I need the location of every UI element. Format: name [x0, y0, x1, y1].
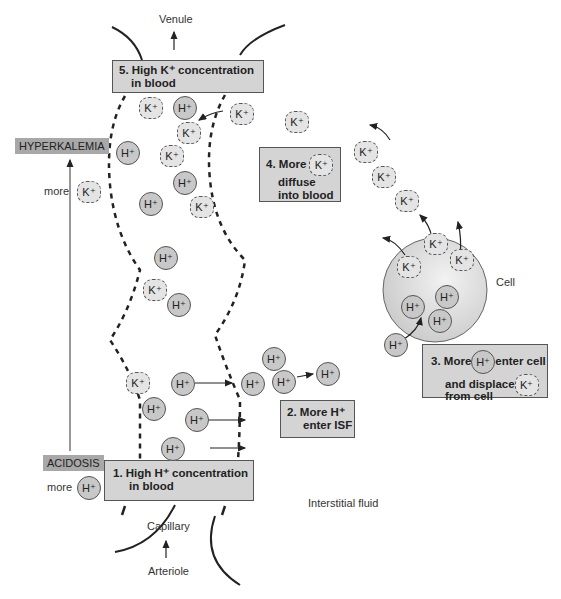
step-5-box: 5. High K⁺ concentration in blood	[112, 60, 264, 93]
h-ion: H⁺	[171, 372, 195, 396]
h-ion: H⁺	[428, 309, 452, 333]
k-ion: K⁺	[77, 181, 101, 203]
step-2-box: 2. More H⁺ enter ISF	[280, 400, 355, 438]
h-ion: H⁺	[142, 397, 166, 421]
k-ion: K⁺	[450, 249, 474, 271]
capillary-label: Capillary	[147, 520, 190, 532]
k-ion: K⁺	[160, 145, 184, 167]
h-ion: H⁺	[154, 246, 178, 270]
k-ion: K⁺	[230, 103, 254, 125]
acidosis-tag: ACIDOSIS	[43, 455, 104, 471]
h-ion: H⁺	[272, 370, 296, 394]
k-ion: K⁺	[395, 190, 419, 212]
k-ion-icon: K⁺	[309, 154, 333, 176]
k-ion: K⁺	[372, 166, 396, 188]
more-h-label: more	[47, 481, 72, 493]
k-ion: K⁺	[285, 111, 309, 133]
interstitial-fluid-label: Interstitial fluid	[308, 497, 378, 509]
h-ion: H⁺	[139, 192, 163, 216]
cell-label: Cell	[496, 276, 515, 288]
venule-label: Venule	[159, 13, 193, 25]
k-ion: K⁺	[397, 256, 421, 278]
h-ion: H⁺	[384, 333, 408, 357]
vessel-wall-top-right	[240, 25, 285, 55]
h-ion: H⁺	[161, 437, 185, 461]
vessel-wall-top-left	[112, 27, 142, 60]
h-ion: H⁺	[435, 285, 459, 309]
h-ion: H⁺	[173, 96, 197, 120]
k-ion-icon: K⁺	[515, 374, 539, 396]
h-ion: H⁺	[173, 171, 197, 195]
step-1-box: 1. High H⁺ concentration in blood	[104, 460, 254, 501]
k-ion: K⁺	[126, 372, 150, 394]
h-ion: H⁺	[401, 295, 425, 319]
k-ion: K⁺	[143, 279, 167, 301]
capillary-wall-right	[209, 95, 245, 460]
h-ion: H⁺	[241, 372, 265, 396]
k-ion: K⁺	[354, 141, 378, 163]
h-ion: H⁺	[316, 362, 340, 386]
step-3-box: 3. MoreH⁺enter cell and displaceK⁺ from …	[422, 344, 548, 398]
h-ion: H⁺	[185, 408, 209, 432]
vessel-wall-bottom-right	[211, 516, 240, 585]
h-ion: H⁺	[77, 476, 101, 500]
h-ion: H⁺	[116, 141, 140, 165]
diagram-lines	[0, 0, 561, 599]
more-k-label: more	[44, 185, 69, 197]
arteriole-label: Arteriole	[148, 565, 189, 577]
h-ion: H⁺	[167, 293, 191, 317]
step-4-box: 4. More K⁺ diffuse into blood	[259, 147, 341, 202]
hyperkalemia-tag: HYPERKALEMIA	[15, 138, 109, 154]
h-ion: H⁺	[262, 347, 286, 371]
k-ion: K⁺	[139, 97, 163, 119]
k-ion: K⁺	[424, 233, 448, 255]
k-ion: K⁺	[190, 196, 214, 218]
k-ion: K⁺	[177, 122, 201, 144]
h-ion-icon: H⁺	[471, 350, 495, 374]
